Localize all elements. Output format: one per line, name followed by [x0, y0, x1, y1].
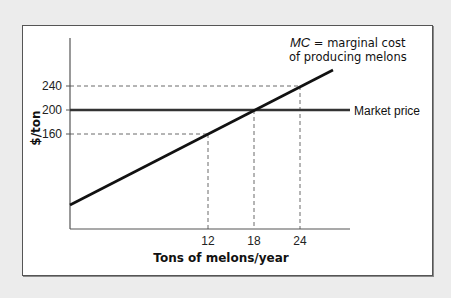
y-tick-label-160: 160 [42, 127, 62, 141]
market-price-label: Market price [354, 104, 420, 118]
mc-label-line2: of producing melons [289, 50, 407, 64]
x-tick-label-24: 24 [293, 234, 307, 248]
mc-label-line1: MC = marginal cost [290, 35, 406, 50]
mc-label-rest: = marginal cost [310, 36, 406, 50]
y-axis-title: $/ton [29, 110, 43, 145]
mc-label-prefix: MC [290, 35, 311, 50]
chart-plot: 240 200 160 12 18 24 Tons of melons/year… [0, 0, 451, 298]
reference-lines [70, 86, 300, 229]
y-tick-label-240: 240 [42, 79, 62, 93]
x-tick-label-12: 12 [201, 234, 215, 248]
y-tick-label-200: 200 [42, 103, 62, 117]
x-axis-title: Tons of melons/year [153, 251, 288, 265]
mc-line [70, 70, 333, 205]
x-tick-label-18: 18 [247, 234, 261, 248]
